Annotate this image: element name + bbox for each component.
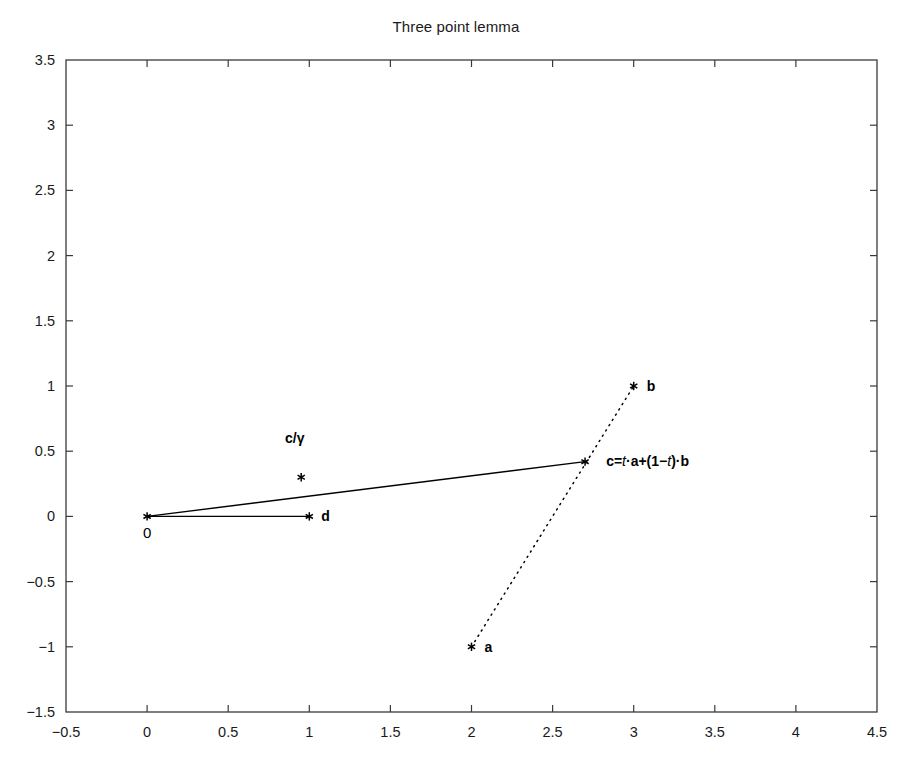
y-tick-label: 1.5 (35, 313, 55, 329)
x-tick-label: −0.5 (52, 724, 81, 740)
x-tick-label: 4.5 (867, 724, 887, 740)
y-tick-label: 0 (47, 508, 55, 524)
c-equation-label: c=t·a+(1−t)·b (606, 453, 689, 469)
axes-frame (66, 60, 877, 712)
x-axis-ticks (147, 60, 796, 712)
y-tick-label: 3.5 (35, 52, 55, 68)
marker-b (630, 382, 637, 390)
x-tick-label: 3 (630, 724, 638, 740)
y-axis-tick-labels: −1.5−1−0.500.511.522.533.5 (26, 52, 55, 720)
y-tick-label: 2.5 (35, 182, 55, 198)
y-tick-label: 1 (47, 378, 55, 394)
segment-a-to-b (472, 386, 634, 647)
plot-area: −0.500.511.522.533.544.5 −1.5−1−0.500.51… (0, 0, 912, 767)
label-origin: 0 (143, 524, 151, 541)
annotations: c/γc=t·a+(1−t)·b (285, 430, 689, 468)
y-tick-label: 0.5 (35, 443, 55, 459)
x-tick-label: 0 (143, 724, 151, 740)
segment-origin-to-c (147, 462, 585, 517)
x-tick-label: 1.5 (380, 724, 400, 740)
x-tick-label: 2 (467, 724, 475, 740)
marker-a (468, 643, 475, 651)
y-tick-label: 2 (47, 248, 55, 264)
label-a: a (485, 639, 493, 655)
line-segments (147, 386, 634, 647)
x-tick-label: 1 (305, 724, 313, 740)
x-tick-label: 3.5 (705, 724, 725, 740)
x-tick-label: 0.5 (218, 724, 238, 740)
label-d: d (321, 508, 330, 524)
y-axis-ticks (66, 125, 877, 647)
marker-c-over-gamma (298, 473, 305, 481)
x-tick-label: 4 (792, 724, 800, 740)
c-over-gamma-label: c/γ (285, 430, 305, 446)
y-tick-label: −1 (38, 639, 55, 655)
y-tick-label: 3 (47, 117, 55, 133)
x-tick-label: 2.5 (543, 724, 563, 740)
label-b: b (647, 378, 656, 394)
x-axis-tick-labels: −0.500.511.522.533.544.5 (52, 724, 887, 740)
y-tick-label: −1.5 (26, 704, 55, 720)
figure-container: Three point lemma −0.500.511.522.533.544… (0, 0, 912, 767)
y-tick-label: −0.5 (26, 574, 55, 590)
